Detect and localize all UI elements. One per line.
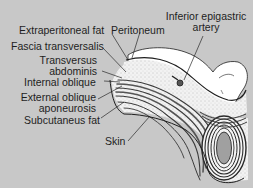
anatomy-diagram: Extraperitoneal fat Peritoneum Inferior … <box>0 0 253 188</box>
label-internal-oblique: Internal oblique <box>24 77 96 88</box>
label-skin: Skin <box>105 136 125 147</box>
label-peritoneum: Peritoneum <box>111 25 165 36</box>
label-inferior-epigastric-artery: Inferior epigastric artery <box>161 11 251 33</box>
label-external-oblique-aponeurosis: External oblique aponeurosis <box>10 92 96 114</box>
inferior-epigastric-artery <box>177 80 183 86</box>
label-fascia-transversalis: Fascia transversalis <box>11 41 104 52</box>
label-extraperitoneal-fat: Extraperitoneal fat <box>19 25 104 36</box>
label-transversus-abdominis: Transversus abdominis <box>20 55 97 77</box>
label-subcutaneous-fat: Subcutaneus fat <box>24 115 100 126</box>
